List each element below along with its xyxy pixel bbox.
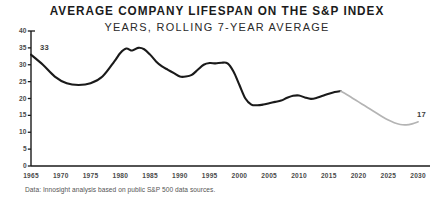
y-axis-tick-label: 30	[11, 61, 27, 68]
y-axis-tick-label: 40	[11, 27, 27, 34]
x-axis-tick-label: 2005	[254, 172, 284, 179]
x-axis-tick-label: 1985	[135, 172, 165, 179]
data-value-label: 17	[417, 110, 426, 119]
y-axis-tick-label: 0	[11, 162, 27, 169]
x-axis-tick-label: 1975	[76, 172, 106, 179]
x-axis-tick-label: 2015	[314, 172, 344, 179]
series-group	[31, 48, 418, 125]
x-axis-tick-label: 2025	[373, 172, 403, 179]
y-axis-tick-label: 10	[11, 128, 27, 135]
y-axis-tick-label: 15	[11, 111, 27, 118]
x-axis-tick-label: 1995	[195, 172, 225, 179]
data-value-label: 33	[40, 43, 49, 52]
y-axis-tick-label: 5	[11, 145, 27, 152]
x-axis-tick-label: 1990	[165, 172, 195, 179]
y-axis-tick-label: 35	[11, 44, 27, 51]
y-axis-tick-label: 20	[11, 95, 27, 102]
x-axis-tick-label: 2000	[224, 172, 254, 179]
line-series-projected	[341, 91, 418, 125]
x-axis-tick-label: 2010	[284, 172, 314, 179]
x-axis-tick-label: 1980	[105, 172, 135, 179]
x-axis-tick-label: 1970	[46, 172, 76, 179]
x-axis-tick-label: 2020	[344, 172, 374, 179]
axis-group	[28, 31, 430, 166]
x-axis-tick-label: 2030	[403, 172, 433, 179]
line-series-historical	[31, 48, 341, 106]
chart-container: AVERAGE COMPANY LIFESPAN ON THE S&P INDE…	[0, 0, 434, 208]
y-axis-tick-label: 25	[11, 78, 27, 85]
x-axis-tick-label: 1965	[16, 172, 46, 179]
source-note: Data: Innosight analysis based on public…	[25, 186, 215, 193]
